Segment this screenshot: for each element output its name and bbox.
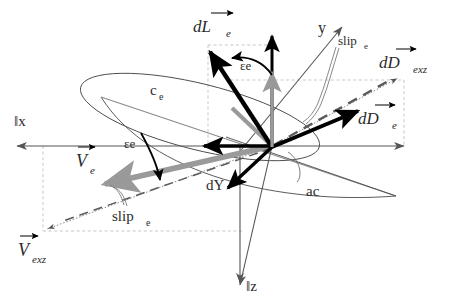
angle-arc-epsilon-top [232,57,272,75]
vector-dDe-shaft [272,111,358,147]
label-dLe: dL e [193,13,233,39]
label-chord-main: c [150,82,157,98]
label-Vexz-sub: exz [32,253,47,265]
label-axis-z: ‖z [246,278,257,294]
label-chord: c e [150,82,164,102]
axis-z-down [240,146,272,285]
label-axis-x: ‖x [14,113,26,129]
label-slip-left-main: slip [112,208,134,224]
label-Ve-main: V [76,151,89,171]
label-axis-y: y [318,19,326,37]
label-Ve: V e [76,147,95,176]
wing-planform-ellipse [73,55,396,197]
label-dY: dY [206,177,225,193]
label-slip-left-sub: e [146,217,151,228]
label-dLe-sub: e [226,27,231,39]
label-epsilon-left: εe [124,136,135,151]
label-slip-top-main: slip [338,33,357,48]
label-dLe-main: dL [193,17,211,36]
label-epsilon-top: εe [240,58,251,73]
label-slip-left: slip e [112,208,151,228]
label-slip-top-sub: e [364,41,368,51]
label-dDexz-main: dD [379,53,401,72]
label-dDexz: dD exz [379,49,428,75]
label-slip-top: slip e [338,33,368,51]
label-dDe-main: dD [358,109,380,128]
label-ac: ac [306,183,320,199]
Ve-shaft [105,146,272,184]
label-Ve-sub: e [90,164,95,176]
diagram-canvas: dL e εe y slip e dD exz dD e c e ‖x εe V… [0,0,450,303]
ac-leader [288,152,300,182]
label-dDexz-sub: exz [413,63,428,75]
label-dDe: dD e [358,105,397,131]
vector-diagram: dL e εe y slip e dD exz dD e c e ‖x εe V… [0,0,450,303]
label-chord-sub: e [159,91,164,102]
slip-top-leader [303,47,339,124]
label-Vexz-main: V [18,240,31,260]
label-dDe-sub: e [392,119,397,131]
label-Vexz: V exz [18,236,47,265]
projection-rays [47,78,398,229]
